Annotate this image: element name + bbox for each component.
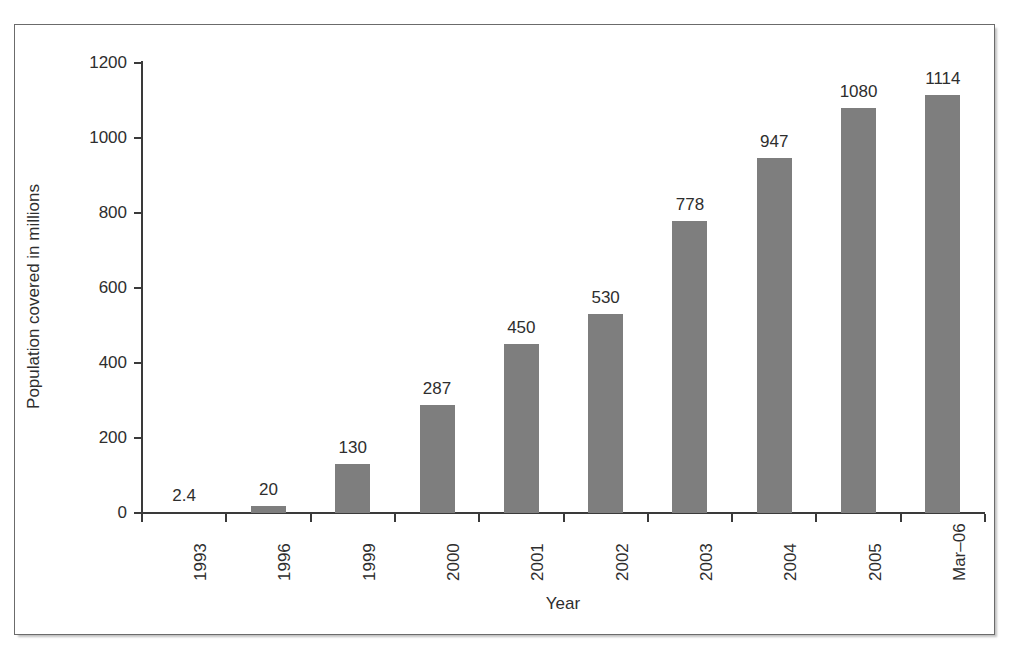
y-tick-label: 800 — [53, 204, 127, 221]
bar — [335, 464, 370, 513]
bar — [504, 344, 539, 513]
y-axis-line — [141, 61, 143, 514]
bar — [757, 158, 792, 513]
x-tick-label: 2003 — [698, 543, 715, 581]
y-tick-mark — [134, 62, 141, 64]
bar — [672, 221, 707, 513]
x-tick-mark — [225, 514, 227, 522]
bar-value-label: 1080 — [814, 83, 904, 100]
x-tick-mark — [647, 514, 649, 522]
x-tick-mark — [141, 514, 143, 522]
x-tick-mark — [731, 514, 733, 522]
bar — [925, 95, 960, 513]
bar-value-label: 130 — [308, 439, 398, 456]
x-tick-mark — [478, 514, 480, 522]
x-tick-label: 1993 — [192, 543, 209, 581]
x-tick-label: 1999 — [361, 543, 378, 581]
y-tick-label: 400 — [53, 354, 127, 371]
x-tick-mark — [563, 514, 565, 522]
x-tick-mark — [815, 514, 817, 522]
y-tick-label: 600 — [53, 279, 127, 296]
bar — [251, 506, 286, 514]
bar — [588, 314, 623, 513]
bar-value-label: 1114 — [898, 70, 988, 87]
x-tick-mark — [900, 514, 902, 522]
bar-value-label: 20 — [223, 481, 313, 498]
bar — [420, 405, 455, 513]
bar-chart-plot: 020040060080010001200 2.4201302874505307… — [15, 25, 996, 636]
bar-value-label: 778 — [645, 196, 735, 213]
y-tick-label: 1000 — [53, 129, 127, 146]
x-tick-mark — [310, 514, 312, 522]
y-tick-mark — [134, 212, 141, 214]
x-tick-label: Mar–06 — [951, 523, 968, 581]
y-tick-mark — [134, 437, 141, 439]
x-tick-mark — [984, 514, 986, 522]
y-tick-label: 1200 — [53, 54, 127, 71]
chart-figure-frame: 020040060080010001200 2.4201302874505307… — [14, 24, 995, 635]
bar-value-label: 287 — [392, 380, 482, 397]
x-tick-label: 2004 — [782, 543, 799, 581]
x-tick-label: 2000 — [445, 543, 462, 581]
bar-value-label: 530 — [561, 289, 651, 306]
y-tick-label: 0 — [53, 504, 127, 521]
x-tick-mark — [394, 514, 396, 522]
y-tick-label: 200 — [53, 429, 127, 446]
x-tick-label: 2002 — [614, 543, 631, 581]
y-tick-mark — [134, 362, 141, 364]
x-tick-label: 1996 — [276, 543, 293, 581]
bar-value-label: 947 — [729, 133, 819, 150]
y-tick-mark — [134, 137, 141, 139]
bar-value-label: 450 — [476, 319, 566, 336]
y-tick-mark — [134, 287, 141, 289]
x-tick-label: 2001 — [529, 543, 546, 581]
bar — [841, 108, 876, 513]
y-tick-mark — [134, 512, 141, 514]
y-axis-title: Population covered in millions — [25, 137, 42, 457]
x-tick-label: 2005 — [867, 543, 884, 581]
x-axis-title: Year — [141, 595, 985, 612]
bar-value-label: 2.4 — [139, 487, 229, 504]
